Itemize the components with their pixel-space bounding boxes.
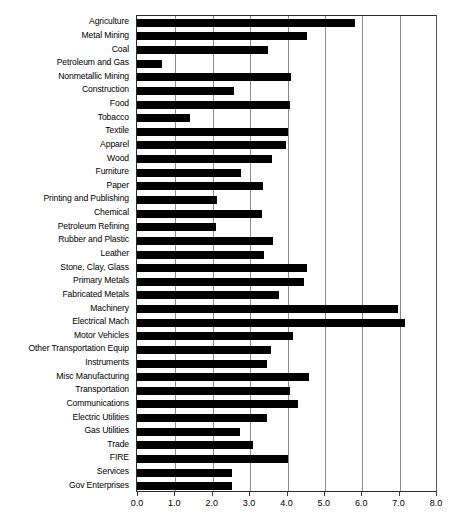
x-tick-mark [361,492,362,496]
category-label: Furniture [0,167,129,176]
category-label: Paper [0,181,129,190]
category-label: Communications [0,399,129,408]
category-label: Transportation [0,385,129,394]
bar [137,210,262,218]
bar [137,19,355,27]
category-label: Leather [0,249,129,258]
bar [137,332,293,340]
category-label: Wood [0,154,129,163]
bar [137,87,234,95]
bar [137,141,286,149]
x-axis: 0.01.02.03.04.05.06.07.08.0 [136,492,437,519]
bar [137,169,241,177]
category-label: Food [0,99,129,108]
bar [137,114,190,122]
category-label: Machinery [0,304,129,313]
bar [137,101,290,109]
category-label: FIRE [0,453,129,462]
category-label: Tobacco [0,113,129,122]
category-label: Construction [0,85,129,94]
bar [137,264,307,272]
x-tick-label: 4.0 [280,498,293,509]
bar [137,482,232,490]
bar [137,346,271,354]
bar [137,414,267,422]
category-label: Other Transportation Equip [0,344,129,353]
category-label: Chemical [0,208,129,217]
category-label: Rubber and Plastic [0,235,129,244]
x-tick-mark [436,492,437,496]
bar [137,196,217,204]
x-tick-mark [174,492,175,496]
bar [137,319,405,327]
category-label: Trade [0,440,129,449]
x-tick-label: 3.0 [243,498,256,509]
category-label: Nonmetallic Mining [0,72,129,81]
x-tick-mark [324,492,325,496]
gridline [362,16,363,491]
category-label: Services [0,467,129,476]
category-label: Instruments [0,358,129,367]
category-label: Printing and Publishing [0,194,129,203]
category-label: Motor Vehicles [0,331,129,340]
bar [137,223,216,231]
category-label: Apparel [0,140,129,149]
x-tick-label: 2.0 [205,498,218,509]
bar [137,291,279,299]
x-tick-label: 7.0 [392,498,405,509]
category-label: Electric Utilities [0,413,129,422]
category-label: Petroleum and Gas [0,58,129,67]
plot-area [136,15,437,492]
category-label: Gov Enterprises [0,481,129,490]
x-tick-label: 1.0 [168,498,181,509]
x-tick-label: 6.0 [355,498,368,509]
bar [137,360,267,368]
category-label: Textile [0,126,129,135]
bar [137,46,268,54]
x-tick-label: 5.0 [318,498,331,509]
category-label: Metal Mining [0,31,129,40]
bar [137,469,232,477]
bar [137,32,307,40]
bar [137,73,291,81]
bar [137,278,304,286]
category-label: Electrical Mach [0,317,129,326]
bar [137,237,273,245]
bar [137,441,253,449]
bar [137,155,272,163]
category-axis-labels: AgricultureMetal MiningCoalPetroleum and… [0,15,133,492]
gridline [325,16,326,491]
gridline [400,16,401,491]
bar [137,428,240,436]
bar [137,373,309,381]
category-label: Coal [0,45,129,54]
x-tick-mark [212,492,213,496]
bar [137,455,288,463]
bar [137,400,298,408]
bar [137,60,162,68]
category-label: Primary Metals [0,276,129,285]
x-tick-mark [399,492,400,496]
x-tick-mark [249,492,250,496]
horizontal-bar-chart: AgricultureMetal MiningCoalPetroleum and… [0,0,457,519]
x-tick-mark [137,492,138,496]
gridline [288,16,289,491]
bar [137,387,290,395]
category-label: Agriculture [0,17,129,26]
x-tick-label: 8.0 [430,498,443,509]
x-tick-label: 0.0 [131,498,144,509]
bar [137,251,264,259]
bar [137,128,288,136]
category-label: Stone, Clay, Glass [0,263,129,272]
category-label: Gas Utilities [0,426,129,435]
bar [137,305,398,313]
category-label: Petroleum Refining [0,222,129,231]
x-tick-mark [287,492,288,496]
category-label: Misc Manufacturing [0,372,129,381]
bar [137,182,263,190]
category-label: Fabricated Metals [0,290,129,299]
